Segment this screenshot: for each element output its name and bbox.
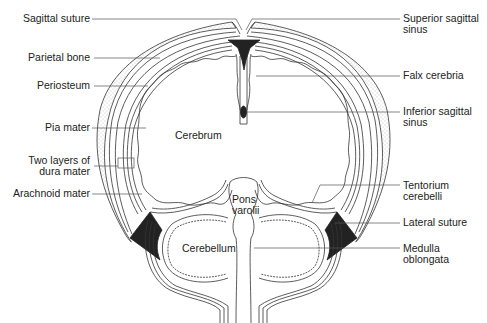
label-medulla-oblongata: Medulla oblongata	[403, 243, 449, 265]
label-tentorium-cerebelli-line2: cerebelli	[403, 191, 449, 202]
label-cerebellum: Cerebellum	[182, 243, 236, 254]
label-arachnoid-mater: Arachnoid mater	[2, 188, 90, 199]
label-dura-mater: Two layers of dura mater	[12, 155, 90, 177]
label-cerebrum: Cerebrum	[175, 130, 222, 141]
label-tentorium-cerebelli: Tentorium cerebelli	[403, 180, 449, 202]
label-inferior-sagittal-sinus-line2: sinus	[403, 117, 472, 128]
label-pons-line2: varolii	[232, 205, 256, 216]
label-superior-sagittal-sinus: Superior sagittal sinus	[403, 13, 479, 35]
label-pia-mater: Pia mater	[22, 122, 90, 133]
label-parietal-bone: Parietal bone	[22, 52, 90, 63]
label-lateral-suture: Lateral suture	[403, 217, 467, 228]
label-pons-varolii: Pons varolii	[232, 194, 256, 216]
label-falx-cerebria: Falx cerebria	[403, 70, 464, 81]
label-dura-mater-line2: dura mater	[12, 166, 90, 177]
label-periosteum: Periosteum	[22, 80, 90, 91]
label-inferior-sagittal-sinus: Inferior sagittal sinus	[403, 106, 472, 128]
label-medulla-oblongata-line2: oblongata	[403, 254, 449, 265]
label-superior-sagittal-sinus-line2: sinus	[403, 24, 479, 35]
label-sagittal-suture: Sagittal suture	[22, 13, 90, 24]
